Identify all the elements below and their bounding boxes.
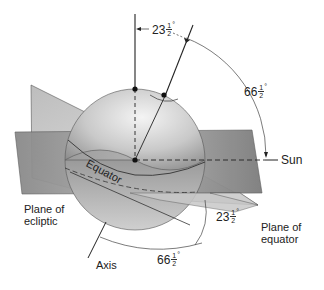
angle-whole: 66 [244,85,257,99]
top-angle-arrowhead [136,27,141,31]
earth-axis-bottom [88,222,106,258]
plane-of-equator-label: Plane of equator [261,221,301,245]
plane-of-ecliptic-label: Plane of ecliptic [24,203,64,227]
north-pole-dot [161,92,166,97]
degree-symbol: ° [264,83,267,90]
angle-label-lower-right: 23 1 2 ° [216,209,239,224]
bottom-angle-arc [100,237,202,249]
angle-label-bottom: 66 1 2 ° [157,252,180,267]
ecliptic-pole-dot [132,86,137,91]
angle-whole: 66 [157,253,170,267]
top-angle-dashed [173,33,187,39]
fraction-denominator: 2 [167,30,171,37]
plane-of-equator-label-line1: Plane of [261,221,301,233]
right-angle-arrowhead [264,152,268,158]
earth-center-dot [132,157,137,162]
angle-whole: 23 [216,210,229,224]
angle-label-top: 23 1 2 ° [152,22,175,37]
fraction-denominator: 2 [231,217,235,224]
plane-of-equator-label-line2: equator [261,233,301,245]
degree-symbol: ° [172,21,175,28]
angle-label-right: 66 1 2 ° [244,84,267,99]
degree-symbol: ° [177,251,180,258]
angle-whole: 23 [152,23,165,37]
axis-label: Axis [96,259,117,271]
sun-label: Sun [281,154,302,166]
fraction-denominator: 2 [259,92,263,99]
fraction-denominator: 2 [172,260,176,267]
plane-of-ecliptic-label-line2: ecliptic [24,215,64,227]
earth-tilt-diagram [0,0,324,290]
plane-of-ecliptic-label-line1: Plane of [24,203,64,215]
degree-symbol: ° [236,208,239,215]
